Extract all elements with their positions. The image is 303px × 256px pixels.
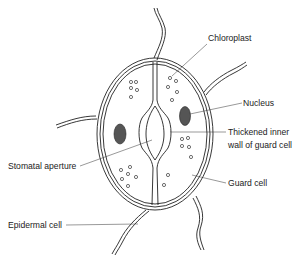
label-chloroplast: Chloroplast <box>208 33 252 43</box>
labels: Chloroplast Nucleus Thickened inner wall… <box>8 33 292 230</box>
label-stomatal-aperture: Stomatal aperture <box>8 161 77 171</box>
nucleus-right <box>180 107 191 126</box>
epidermal-cell-walls <box>56 8 247 255</box>
label-epidermal-cell: Epidermal cell <box>8 220 62 230</box>
label-nucleus: Nucleus <box>243 98 274 108</box>
central-dividing-wall <box>139 62 171 205</box>
leader-lines <box>66 44 242 225</box>
label-thickened-inner-wall-1: Thickened inner <box>228 127 289 137</box>
nucleus-left <box>114 124 126 144</box>
stomatal-aperture-shape <box>146 106 164 160</box>
label-guard-cell: Guard cell <box>228 178 267 188</box>
nuclei <box>114 107 191 145</box>
label-thickened-inner-wall-2: wall of guard cell <box>227 140 292 150</box>
stoma-diagram: Chloroplast Nucleus Thickened inner wall… <box>0 0 303 256</box>
